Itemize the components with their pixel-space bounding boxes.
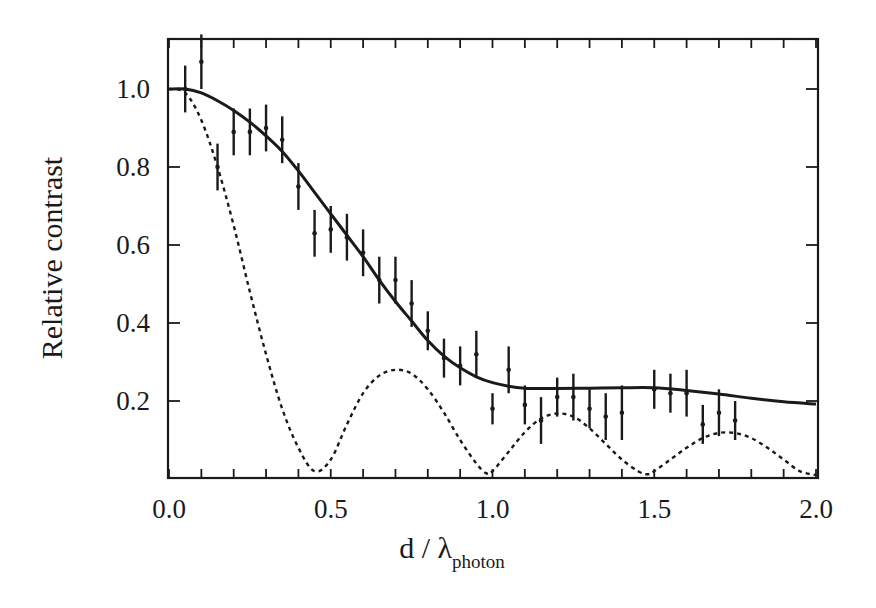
data-point (280, 116, 285, 163)
data-marker (409, 301, 414, 306)
y-axis-tick-labels: 0.20.40.60.81.0 (116, 74, 150, 416)
data-marker (215, 165, 220, 170)
data-point (183, 66, 188, 113)
data-marker (733, 418, 738, 423)
x-tick-label: 0.5 (314, 494, 348, 524)
data-point (442, 339, 447, 378)
data-point (603, 393, 608, 440)
data-point (668, 374, 673, 413)
data-marker (296, 184, 301, 189)
data-marker (328, 227, 333, 232)
data-marker (458, 364, 463, 369)
data-marker (668, 391, 673, 396)
data-marker (426, 329, 431, 334)
data-marker (684, 391, 689, 396)
data-marker (199, 59, 204, 64)
data-point (231, 109, 236, 156)
data-marker (393, 278, 398, 283)
data-marker (539, 418, 544, 423)
data-point (474, 331, 479, 378)
data-point (620, 385, 625, 440)
data-marker (474, 352, 479, 357)
data-marker (183, 87, 188, 92)
data-point (345, 214, 350, 261)
data-point (571, 374, 576, 421)
data-marker (571, 395, 576, 400)
chart-figure: 0.00.51.01.52.0 0.20.40.60.81.0 d / λpho… (0, 0, 876, 608)
data-point (523, 385, 528, 424)
data-point (199, 34, 204, 89)
data-point (684, 370, 689, 417)
data-marker (620, 410, 625, 415)
y-tick-label: 0.6 (116, 230, 150, 260)
data-points-with-error-bars (183, 34, 738, 444)
data-point (539, 397, 544, 444)
data-point (555, 378, 560, 417)
data-marker (717, 410, 722, 415)
data-marker (264, 126, 269, 131)
x-tick-label: 1.0 (476, 494, 510, 524)
data-marker (377, 278, 382, 283)
data-point (215, 144, 220, 191)
data-point (717, 389, 722, 436)
x-axis-tick-labels: 0.00.51.01.52.0 (152, 494, 833, 524)
data-marker (523, 403, 528, 408)
data-point (361, 229, 366, 276)
data-marker (280, 137, 285, 142)
data-point (264, 105, 269, 152)
data-marker (248, 130, 253, 135)
data-point (248, 109, 253, 156)
data-marker (312, 231, 317, 236)
data-marker (603, 414, 608, 419)
y-tick-label: 0.2 (116, 386, 150, 416)
y-axis-title: Relative contrast (35, 156, 68, 359)
data-point (733, 401, 738, 440)
data-marker (587, 407, 592, 412)
x-axis-title: d / λphoton (399, 531, 505, 572)
data-point (490, 393, 495, 424)
data-marker (652, 387, 657, 392)
data-marker (506, 368, 511, 373)
y-tick-label: 0.8 (116, 152, 150, 182)
data-marker (490, 407, 495, 412)
x-tick-label: 2.0 (799, 494, 833, 524)
data-point (587, 389, 592, 428)
data-marker (442, 356, 447, 361)
data-point (652, 370, 657, 409)
y-tick-label: 1.0 (116, 74, 150, 104)
data-point (458, 346, 463, 385)
x-axis-title-main: d / λ (399, 531, 452, 564)
data-marker (361, 251, 366, 256)
data-point (393, 257, 398, 304)
data-marker (345, 235, 350, 240)
data-marker (700, 422, 705, 427)
y-tick-label: 0.4 (116, 308, 150, 338)
data-point (312, 210, 317, 257)
data-point (377, 257, 382, 304)
data-marker (555, 395, 560, 400)
x-tick-label: 0.0 (152, 494, 186, 524)
data-marker (231, 130, 236, 135)
x-axis-title-subscript: photon (452, 551, 505, 572)
x-tick-label: 1.5 (637, 494, 671, 524)
